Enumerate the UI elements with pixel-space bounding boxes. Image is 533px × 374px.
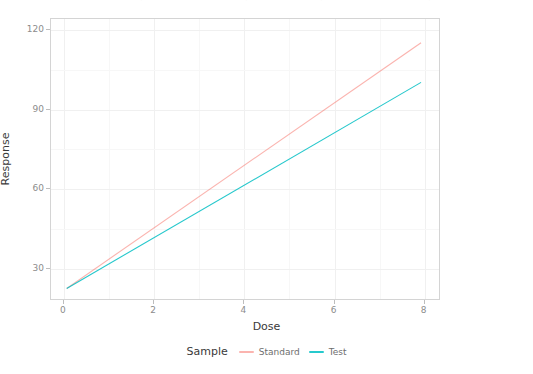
legend: Sample Standard Test [0,345,533,358]
tick-mark-x-2 [153,300,154,304]
tick-label-x-4: 4 [240,305,246,315]
legend-entry-standard[interactable]: Standard [239,347,300,357]
tick-label-y-120: 120 [27,24,44,34]
tick-label-y-90: 90 [33,104,44,114]
tick-label-x-2: 2 [150,305,156,315]
tick-mark-x-6 [334,300,335,304]
tick-mark-y-60 [46,188,50,189]
y-axis-title: Response [0,133,12,186]
tick-mark-y-30 [46,268,50,269]
legend-entry-test[interactable]: Test [309,347,347,357]
tick-label-x-8: 8 [421,305,427,315]
tick-mark-y-120 [46,29,50,30]
tick-mark-y-90 [46,109,50,110]
tick-label-x-6: 6 [331,305,337,315]
clipped-top-strip: · · · · [0,0,533,6]
chart-plot-root: · · · · 30 60 90 12 [0,0,533,374]
plot-panel [50,18,440,300]
clipped-fragment-3: · [320,0,323,5]
clipped-fragment-1: · [140,0,143,5]
legend-label-test: Test [329,347,347,357]
tick-label-x-0: 0 [60,305,66,315]
clipped-fragment-2: · [245,0,248,5]
legend-key-standard-icon [239,351,254,353]
tick-mark-x-4 [243,300,244,304]
clipped-fragment-4: · [428,0,431,5]
tick-mark-x-8 [424,300,425,304]
series-line-standard [67,43,421,289]
tick-mark-x-0 [63,300,64,304]
tick-label-y-60: 60 [33,183,44,193]
x-axis-title: Dose [0,320,533,333]
series-layer [51,19,439,299]
series-line-test [67,82,421,288]
legend-label-standard: Standard [259,347,300,357]
legend-key-test-icon [309,351,324,353]
legend-title: Sample [187,345,228,358]
tick-label-y-30: 30 [33,263,44,273]
